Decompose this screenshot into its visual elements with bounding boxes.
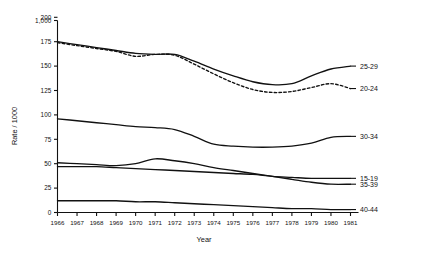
x-tick-label: 1970 <box>129 219 143 226</box>
y-tick-label: 1,000 <box>35 17 52 24</box>
legend-group: 25-2920-2430-3415-1935-3940-44 <box>351 63 379 213</box>
legend-label-30-34: 30-34 <box>360 133 378 140</box>
y-tick-label: 175 <box>41 38 52 45</box>
x-tick-label: 1978 <box>285 219 299 226</box>
x-tick-label: 1971 <box>148 219 162 226</box>
y-tick-label: 75 <box>44 136 52 143</box>
series-line-15-19 <box>58 167 351 179</box>
y-tick-label: 25 <box>44 184 52 191</box>
series-line-30-34 <box>58 119 351 147</box>
y-axis-title: Rate / 1000 <box>10 107 19 145</box>
y-tick-label: 0 <box>48 209 52 216</box>
x-tick-label: 1966 <box>51 219 65 226</box>
y-tick-label: 150 <box>41 62 52 69</box>
x-tick-label: 1979 <box>305 219 319 226</box>
legend-label-35-39: 35-39 <box>360 181 378 188</box>
series-line-20-24 <box>58 43 351 93</box>
x-tick-label: 1981 <box>344 219 358 226</box>
x-tick-label: 1976 <box>246 219 260 226</box>
y-tick-group: 02550751001251501752001,000 <box>35 14 58 216</box>
x-tick-label: 1972 <box>168 219 182 226</box>
chart-figure: 02550751001251501752001,000Rate / 100019… <box>0 0 425 254</box>
x-tick-label: 1977 <box>265 219 279 226</box>
legend-label-40-44: 40-44 <box>360 206 378 213</box>
x-axis-title: Year <box>197 235 212 244</box>
line-chart-canvas: 02550751001251501752001,000Rate / 100019… <box>0 0 425 254</box>
x-tick-label: 1973 <box>187 219 201 226</box>
y-tick-label: 50 <box>44 160 52 167</box>
y-tick-label: 125 <box>41 87 52 94</box>
legend-label-20-24: 20-24 <box>360 85 378 92</box>
x-tick-group: 1966196719681969197019711972197319741975… <box>51 213 358 226</box>
series-group <box>58 42 351 210</box>
x-tick-label: 1969 <box>109 219 123 226</box>
x-tick-label: 1974 <box>207 219 221 226</box>
series-line-40-44 <box>58 201 351 210</box>
x-tick-label: 1975 <box>226 219 240 226</box>
x-tick-label: 1980 <box>324 219 338 226</box>
x-tick-label: 1968 <box>90 219 104 226</box>
series-line-25-29 <box>58 42 351 85</box>
x-tick-label: 1967 <box>70 219 84 226</box>
y-tick-label: 100 <box>41 111 52 118</box>
legend-label-25-29: 25-29 <box>360 63 378 70</box>
